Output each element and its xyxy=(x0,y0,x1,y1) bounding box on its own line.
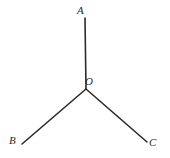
segment-ob xyxy=(22,89,86,144)
point-label-c: C xyxy=(149,137,156,148)
geometry-figure: A O B C xyxy=(0,0,170,158)
point-label-a: A xyxy=(77,5,84,16)
point-label-o: O xyxy=(85,76,93,87)
segment-oc xyxy=(86,89,147,142)
point-label-b: B xyxy=(9,135,16,146)
